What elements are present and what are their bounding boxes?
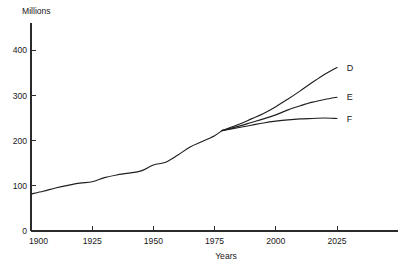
- series-label-f: F: [347, 114, 353, 124]
- series-label-d: D: [347, 63, 354, 73]
- y-tick-label: 0: [22, 226, 27, 236]
- x-tick-label: 2000: [266, 236, 285, 246]
- y-tick-label: 400: [13, 45, 28, 55]
- x-tick-label: 1925: [83, 236, 102, 246]
- y-tick-label: 300: [13, 91, 28, 101]
- x-tick-label: 2025: [327, 236, 346, 246]
- x-tick-label: 1900: [29, 236, 48, 246]
- series-end-labels: DEF: [347, 63, 354, 124]
- series-lines: [31, 67, 337, 194]
- population-projection-chart: 0100200300400 190019251950197520002025 D…: [0, 0, 404, 265]
- x-axis-ticks: [92, 226, 337, 231]
- series-label-e: E: [347, 92, 353, 102]
- series-line-historical: [31, 131, 222, 194]
- x-tick-label: 1950: [144, 236, 163, 246]
- y-axis-group: 0100200300400: [13, 23, 36, 236]
- y-axis-ticks: [31, 50, 36, 231]
- y-tick-label: 200: [13, 136, 28, 146]
- series-line-e: [222, 97, 337, 130]
- x-axis-group: 190019251950197520002025: [29, 226, 398, 246]
- x-axis-title: Years: [215, 251, 237, 261]
- y-axis-tick-labels: 0100200300400: [13, 45, 28, 236]
- y-tick-label: 100: [13, 181, 28, 191]
- chart-canvas: 0100200300400 190019251950197520002025 D…: [0, 0, 404, 265]
- x-axis-tick-labels: 190019251950197520002025: [29, 236, 347, 246]
- x-tick-label: 1975: [205, 236, 224, 246]
- y-axis-title: Millions: [22, 6, 51, 16]
